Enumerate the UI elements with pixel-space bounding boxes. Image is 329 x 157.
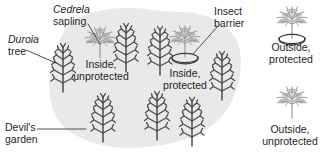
label-insect-barrier: Insectbarrier [214, 6, 244, 29]
inside-protected-line1: Inside, [170, 67, 201, 79]
cedrela-sapling-outside-protected [277, 7, 307, 38]
devils-garden-line2: garden [5, 133, 38, 145]
cedrela-sapling-outside-unprotected [277, 87, 307, 118]
inside-unprotected-line2: unprotected [73, 70, 128, 82]
label-outside-unprotected: Outside,unprotected [252, 124, 328, 147]
duroia-common-text: tree [8, 45, 26, 57]
insect-barrier-line1: Insect [214, 5, 242, 17]
cedrela-genus-text: Cedrela [53, 3, 90, 15]
duroia-genus-text: Duroia [8, 33, 39, 45]
outside-unprotected-line2: unprotected [262, 135, 317, 147]
outside-unprotected-line1: Outside, [270, 123, 309, 135]
insect-barrier-line2: barrier [214, 17, 244, 29]
label-inside-protected: Inside,protected [156, 68, 214, 91]
label-duroia-tree: Duroiatree [8, 34, 39, 57]
label-cedrela-sapling: Cedrelasapling [53, 4, 90, 27]
label-outside-protected: Outside,protected [256, 42, 326, 65]
devils-garden-diagram: Duroiatree Cedrelasapling Devil'sgarden … [0, 0, 329, 157]
label-inside-unprotected: Inside,unprotected [71, 59, 131, 82]
cedrela-common-text: sapling [53, 15, 86, 27]
inside-unprotected-line1: Inside, [86, 58, 117, 70]
outside-protected-line2: protected [269, 53, 313, 65]
devils-garden-line1: Devil's [5, 121, 36, 133]
inside-protected-line2: protected [163, 79, 207, 91]
label-devils-garden: Devil'sgarden [5, 122, 38, 145]
outside-protected-line1: Outside, [271, 41, 310, 53]
